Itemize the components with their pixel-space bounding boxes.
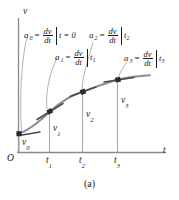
annotation-a2-numerator: dv — [108, 27, 118, 36]
annotation-a0-equals: = — [35, 31, 40, 40]
value-label-v0-sub: 0 — [26, 144, 29, 151]
leader-a0 — [21, 37, 27, 131]
droplines-group — [19, 79, 118, 152]
annotation-a3-equals: = — [135, 54, 140, 63]
annotation-a2-denominator: dt — [108, 36, 117, 45]
annotation-a2-fraction: dv dt — [108, 27, 118, 45]
annotation-a1-evaluated-at: t1 — [90, 53, 95, 63]
annotation-a2-evaluated-at-sub: 2 — [126, 35, 129, 41]
annotation-a1-evaluated-at-sub: 1 — [92, 57, 95, 63]
annotation-a3-symbol-sub: 3 — [130, 58, 133, 64]
value-label-v0: v0 — [22, 138, 29, 149]
value-label-v2-sub: 2 — [90, 116, 93, 123]
marker-v2 — [80, 88, 87, 94]
annotation-a3-symbol: a — [124, 54, 129, 63]
origin-label: O — [7, 154, 14, 164]
annotation-a0-evaluated-at: t = 0 — [59, 31, 76, 41]
annotation-a1-denominator: dt — [74, 58, 83, 67]
annotation-a2-symbol: a — [89, 31, 94, 40]
annotation-a1-symbol: a — [55, 53, 60, 62]
marker-v0 — [16, 131, 21, 136]
evaluation-bar-icon — [56, 27, 57, 45]
x-tick-t1: t1 — [46, 156, 52, 167]
annotation-a1: a1 = dv dt t1 — [55, 47, 95, 67]
value-label-v2: v2 — [86, 110, 93, 121]
annotation-a1-numerator: dv — [74, 49, 84, 58]
x-tick-t2-sub: 2 — [82, 162, 85, 169]
annotation-a1-symbol-sub: 1 — [61, 57, 64, 63]
annotation-a3-numerator: dv — [143, 50, 153, 59]
annotation-a0-numerator: dv — [43, 27, 53, 36]
evaluation-bar-icon — [87, 49, 88, 67]
annotation-a0-symbol: a — [24, 31, 29, 40]
x-tick-t1-sub: 1 — [49, 162, 52, 169]
tangent-lines-group — [19, 78, 134, 136]
evaluation-bar-icon — [121, 27, 122, 45]
annotation-a1-fraction: dv dt — [74, 49, 84, 67]
annotation-a0-fraction: dv dt — [43, 27, 53, 45]
annotation-a3-evaluated-at: t3 — [159, 54, 164, 64]
marker-v3 — [115, 77, 121, 83]
annotation-a2: a2 = dv dt t2 — [89, 25, 129, 45]
annotation-a2-symbol-sub: 2 — [95, 35, 98, 41]
annotation-a0: a0 = dv dt t = 0 — [24, 25, 76, 45]
annotation-a3-fraction: dv dt — [143, 50, 153, 68]
figure-caption: (a) — [0, 178, 179, 189]
velocity-curve — [19, 75, 150, 133]
annotation-a2-equals: = — [100, 31, 105, 40]
x-tick-t2: t2 — [79, 156, 85, 167]
x-tick-t3-sub: 3 — [117, 162, 120, 169]
evaluation-bar-icon — [156, 50, 157, 68]
value-label-v1-sub: 1 — [57, 130, 60, 137]
value-label-v1: v1 — [53, 124, 60, 135]
velocity-time-figure: v t O t1 t2 t3 v0 v1 v2 v3 a0 = dv dt t — [0, 0, 179, 200]
annotation-a2-evaluated-at: t2 — [124, 31, 129, 41]
value-label-v3: v3 — [121, 96, 128, 107]
x-tick-t3: t3 — [114, 156, 120, 167]
annotation-a1-equals: = — [66, 53, 71, 62]
annotation-a3-evaluated-at-sub: 3 — [161, 58, 164, 64]
value-label-v3-sub: 3 — [125, 102, 128, 109]
x-axis-label: t — [163, 146, 166, 156]
annotation-a0-symbol-sub: 0 — [30, 35, 33, 41]
y-axis-label: v — [23, 7, 27, 17]
annotation-a0-denominator: dt — [43, 36, 52, 45]
annotation-a3-denominator: dt — [143, 59, 152, 68]
annotation-a3: a3 = dv dt t3 — [124, 48, 164, 68]
